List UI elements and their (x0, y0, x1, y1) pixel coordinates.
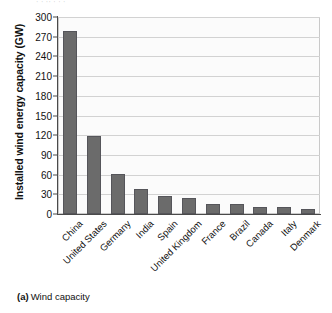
y-tick-label: 0 (22, 209, 52, 220)
caption-tag: (a) (17, 291, 29, 302)
bar (301, 209, 315, 214)
bar-series (58, 17, 320, 214)
bar (158, 196, 172, 214)
y-tick-label: 240 (22, 51, 52, 62)
figure-wind-capacity: Installed wind energy capacity (GW) 0306… (0, 0, 332, 313)
y-tick-label: 300 (22, 12, 52, 23)
plot-wrapper: 0306090120150180210240270300 (58, 17, 320, 214)
x-axis-labels: ChinaUnited StatesGermanyIndiaSpainUnite… (58, 216, 320, 286)
y-tick-label: 120 (22, 130, 52, 141)
figure-caption: (a)Wind capacity (17, 291, 90, 302)
x-tick-label: India (134, 218, 156, 240)
bar (63, 31, 77, 214)
bar (87, 136, 101, 214)
y-tick-label: 210 (22, 71, 52, 82)
y-tick-label: 90 (22, 149, 52, 160)
bar (230, 204, 244, 214)
bar (111, 174, 125, 214)
bar (277, 207, 291, 214)
y-tick-label: 30 (22, 189, 52, 200)
bar (134, 189, 148, 214)
y-tick-label: 150 (22, 110, 52, 121)
bar (182, 198, 196, 214)
y-tick-label: 270 (22, 31, 52, 42)
bar (206, 204, 220, 215)
caption-text: Wind capacity (31, 291, 90, 302)
y-tick-label: 180 (22, 90, 52, 101)
bar (253, 207, 267, 214)
x-tick-label: France (199, 218, 228, 247)
y-tick-label: 60 (22, 169, 52, 180)
